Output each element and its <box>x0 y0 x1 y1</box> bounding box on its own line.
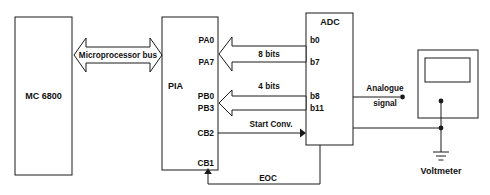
eoc-label: EOC <box>259 174 277 183</box>
voltmeter-label: Voltmeter <box>421 166 462 176</box>
pia-pin-pb0-label: PB0 <box>198 91 215 101</box>
four-bit-data-arrow[interactable] <box>219 90 306 116</box>
analogue-terminal-dot <box>400 95 405 100</box>
analogue-label: Analogue <box>366 84 404 93</box>
pia-pin-pa7-label: PA7 <box>198 57 214 67</box>
block-diagram-canvas: MC 6800 Microprocessor bus PIA PA0 PA7 P… <box>0 0 490 195</box>
pia-pin-cb2-label: CB2 <box>197 128 214 138</box>
voltmeter-block[interactable] <box>418 50 478 118</box>
adc-block[interactable] <box>306 13 353 145</box>
voltmeter-display <box>425 58 470 82</box>
start-conv-arrowhead <box>300 129 306 138</box>
adc-pin-b11-label: b11 <box>310 103 324 113</box>
pia-pin-pa0-label: PA0 <box>198 35 214 45</box>
adc-pin-b8-label: b8 <box>310 91 320 101</box>
eoc-arrowhead <box>204 168 212 174</box>
adc-pin-b7-label: b7 <box>310 57 320 67</box>
pia-pin-cb1-label: CB1 <box>197 158 214 168</box>
adc-label: ADC <box>320 17 340 27</box>
diagram-svg: MC 6800 Microprocessor bus PIA PA0 PA7 P… <box>0 0 490 195</box>
common-rail-junction-dot <box>439 126 444 131</box>
signal-label: signal <box>373 99 397 108</box>
pia-pin-pb3-label: PB3 <box>198 103 215 113</box>
microprocessor-bus-label: Microprocessor bus <box>79 51 158 60</box>
adc-pin-b0-label: b0 <box>310 35 320 45</box>
mc6800-label: MC 6800 <box>25 91 62 101</box>
start-conv-label: Start Conv. <box>249 120 292 129</box>
pia-label: PIA <box>168 81 184 91</box>
eight-bits-label: 8 bits <box>258 50 280 59</box>
four-bits-label: 4 bits <box>258 82 280 91</box>
